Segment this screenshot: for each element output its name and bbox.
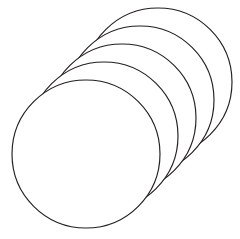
overlapping-circles-diagram: Stack of five overlapping circles — [0, 0, 240, 239]
figure-container: Stack of five overlapping circles — [0, 0, 240, 239]
circle-1-front — [12, 80, 160, 228]
